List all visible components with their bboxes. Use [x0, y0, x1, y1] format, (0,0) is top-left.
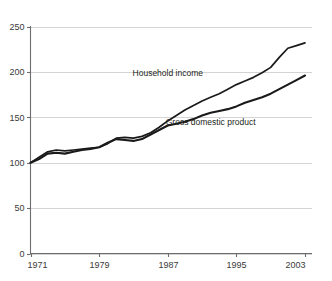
y-axis-labels-group: 050100150200250 — [9, 22, 24, 259]
x-axis-labels-group: 19711979198719952003 — [28, 260, 306, 270]
x-axis-tick-label: 1995 — [226, 260, 246, 270]
series-annotation-gross-domestic-product: Gross domestic product — [166, 117, 256, 127]
y-axis-tick-label: 250 — [9, 22, 24, 32]
gridlines-group — [27, 28, 312, 255]
x-axis-tick-label: 2003 — [285, 260, 305, 270]
y-axis-tick-label: 150 — [9, 113, 24, 123]
line-chart: 050100150200250 19711979198719952003 Hou… — [0, 0, 332, 281]
x-axis-tick-label: 1987 — [158, 260, 178, 270]
x-axis-tick-label: 1979 — [89, 260, 109, 270]
y-axis-tick-label: 200 — [9, 67, 24, 77]
y-axis-tick-label: 100 — [9, 158, 24, 168]
x-axis-tick-label: 1971 — [28, 260, 48, 270]
chart-canvas: 050100150200250 19711979198719952003 Hou… — [0, 0, 332, 281]
series-annotation-household-income: Household income — [133, 68, 204, 78]
y-axis-tick-label: 50 — [14, 203, 24, 213]
series-line-household-income — [31, 43, 306, 163]
y-axis-tick-label: 0 — [19, 249, 24, 259]
data-series-group — [31, 43, 306, 163]
